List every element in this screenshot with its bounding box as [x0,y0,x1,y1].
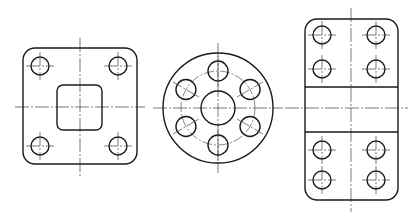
round-flange-view [153,43,283,173]
drawing-svg [0,0,415,224]
plate-outline [305,19,398,200]
square-flange-view [15,38,145,178]
square-opening [57,85,102,130]
rectangular-plate-view [285,8,408,212]
technical-drawing-canvas [0,0,415,224]
